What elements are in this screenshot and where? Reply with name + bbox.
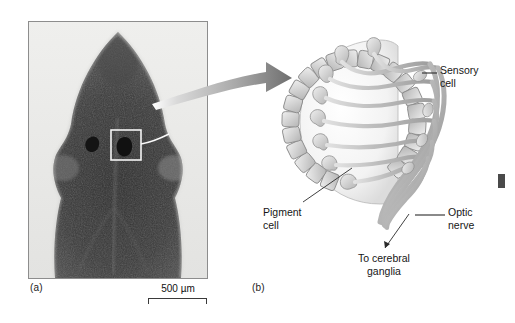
label-pigment-cell: Pigment cell: [263, 206, 302, 231]
leader-lines: [0, 0, 515, 323]
label-sensory-cell: Sensory cell: [440, 64, 479, 89]
label-to-cerebral-ganglia: To cerebral ganglia: [358, 252, 410, 277]
page-edge-mark: [498, 174, 505, 188]
figure-canvas: (a) 500 µm: [0, 0, 515, 323]
leader-to-cerebral-ganglia: [385, 214, 409, 248]
label-optic-nerve: Optic nerve: [448, 206, 474, 231]
leader-pigment-cell: [303, 168, 352, 202]
